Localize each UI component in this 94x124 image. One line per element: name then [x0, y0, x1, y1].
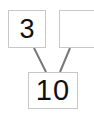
connector-left — [34, 48, 46, 72]
part-left-value: 3 — [19, 14, 34, 45]
whole-box: 10 — [28, 72, 78, 109]
whole-value: 10 — [36, 74, 70, 107]
part-left-box: 3 — [8, 10, 46, 48]
part-right-box[interactable] — [59, 10, 94, 48]
connector-right — [60, 48, 70, 72]
